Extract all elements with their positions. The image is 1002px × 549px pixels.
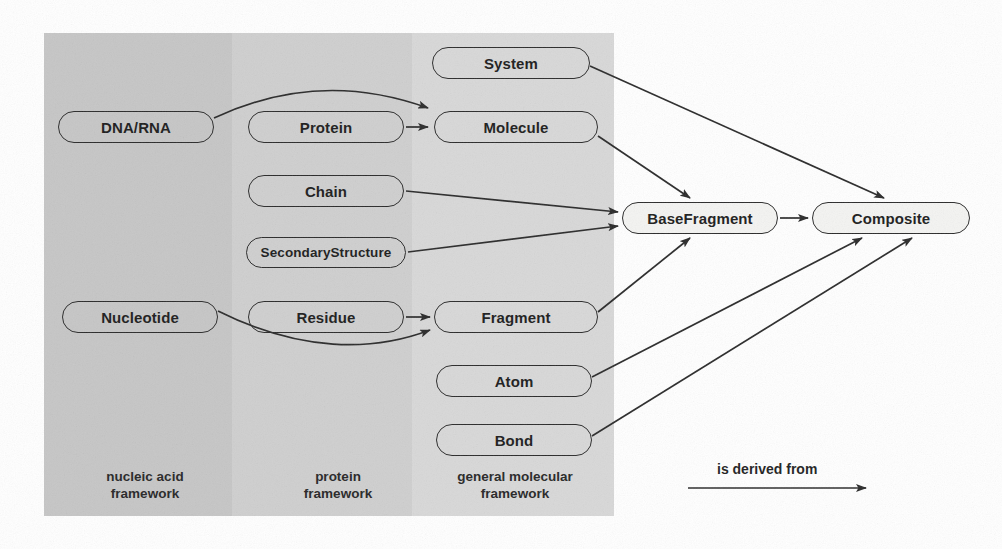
node-label-fragment: Fragment (481, 310, 550, 325)
edge-system-to-composite (590, 66, 884, 198)
node-label-atom: Atom (495, 374, 534, 389)
node-fragment[interactable]: Fragment (434, 301, 598, 333)
edge-atom-to-composite (592, 238, 862, 377)
node-label-protein: Protein (300, 120, 352, 135)
node-label-dna-rna: DNA/RNA (101, 120, 171, 135)
band-label-general-molecular: general molecular framework (420, 468, 610, 503)
node-label-bond: Bond (495, 433, 534, 448)
band-label-nucleic-acid: nucleic acid framework (62, 468, 228, 503)
node-base-fragment[interactable]: BaseFragment (622, 202, 778, 234)
edge-molecule-to-base-fragment (598, 136, 690, 198)
node-nucleotide[interactable]: Nucleotide (62, 301, 218, 333)
node-protein[interactable]: Protein (248, 111, 404, 143)
node-molecule[interactable]: Molecule (434, 111, 598, 143)
edge-bond-to-composite (592, 238, 912, 436)
node-system[interactable]: System (432, 47, 590, 79)
node-label-composite: Composite (852, 211, 930, 226)
edge-fragment-to-base-fragment (598, 238, 690, 312)
node-label-chain: Chain (305, 184, 347, 199)
diagram-canvas: SystemDNA/RNAProteinMoleculeChainSeconda… (0, 0, 1002, 549)
node-dna-rna[interactable]: DNA/RNA (58, 111, 214, 143)
node-composite[interactable]: Composite (812, 202, 970, 234)
node-secondary-structure[interactable]: SecondaryStructure (246, 237, 406, 268)
edges-layer (0, 0, 1002, 549)
legend-label: is derived from (717, 461, 817, 477)
node-label-system: System (484, 56, 538, 71)
node-label-secondary-structure: SecondaryStructure (261, 246, 392, 260)
node-label-base-fragment: BaseFragment (647, 211, 752, 226)
edge-secondary-structure-to-base-fragment (408, 226, 618, 252)
node-chain[interactable]: Chain (248, 175, 404, 207)
edge-chain-to-base-fragment (406, 191, 618, 212)
node-residue[interactable]: Residue (248, 301, 404, 333)
band-label-protein: protein framework (268, 468, 408, 503)
node-label-molecule: Molecule (484, 120, 549, 135)
node-label-residue: Residue (296, 310, 355, 325)
node-bond[interactable]: Bond (436, 424, 592, 456)
node-atom[interactable]: Atom (436, 365, 592, 397)
node-label-nucleotide: Nucleotide (101, 310, 179, 325)
